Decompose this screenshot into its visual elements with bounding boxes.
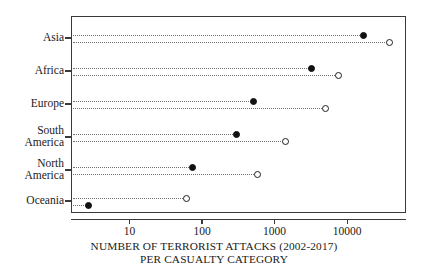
y-axis-label-europe: Europe	[0, 97, 64, 109]
y-axis-tick	[65, 70, 71, 71]
x-axis-title-line2: PER CASUALTY CATEGORY	[0, 253, 428, 266]
x-axis-tick	[274, 219, 275, 224]
connector-dotted-line	[73, 141, 285, 143]
y-axis-label-south-america: SouthAmerica	[0, 124, 64, 148]
x-axis-tick	[129, 219, 130, 224]
x-axis-title-line1: NUMBER OF TERRORIST ATTACKS (2002-2017)	[0, 240, 428, 253]
connector-dotted-line	[73, 198, 187, 200]
connector-dotted-line	[73, 134, 237, 136]
y-axis-label-asia: Asia	[0, 31, 64, 43]
x-axis-title: NUMBER OF TERRORIST ATTACKS (2002-2017) …	[0, 240, 428, 266]
y-axis-tick	[65, 103, 71, 104]
x-axis-line	[71, 219, 406, 220]
plot-area-frame	[71, 16, 406, 213]
filled-data-point-europe	[250, 98, 257, 105]
open-data-point-north-america	[254, 171, 261, 178]
connector-dotted-line	[73, 108, 326, 110]
y-axis-tick	[65, 136, 71, 137]
filled-data-point-south-america	[233, 131, 240, 138]
y-axis-tick	[65, 37, 71, 38]
y-axis-label-line: South	[0, 124, 64, 136]
y-axis-label-africa: Africa	[0, 64, 64, 76]
connector-dotted-line	[73, 174, 258, 176]
open-data-point-africa	[335, 72, 342, 79]
y-axis-label-oceania: Oceania	[0, 194, 64, 206]
y-axis-label-line: Africa	[0, 64, 64, 76]
y-axis-label-line: Oceania	[0, 194, 64, 206]
connector-dotted-line	[73, 75, 339, 77]
y-axis-label-line: Europe	[0, 97, 64, 109]
open-data-point-asia	[386, 39, 393, 46]
open-data-point-south-america	[282, 138, 289, 145]
y-axis-tick	[65, 200, 71, 201]
terrorist-attacks-dot-chart: AsiaAfricaEuropeSouthAmericaNorthAmerica…	[0, 0, 428, 271]
y-axis-label-line: North	[0, 157, 64, 169]
x-axis-tick	[347, 219, 348, 224]
connector-dotted-line	[73, 101, 253, 103]
y-axis-tick	[65, 169, 71, 170]
y-axis-label-line: America	[0, 136, 64, 148]
y-axis-label-line: America	[0, 169, 64, 181]
x-axis-tick	[201, 219, 202, 224]
x-axis-tick-label: 1000	[263, 225, 286, 237]
x-axis-tick-label: 10000	[333, 225, 362, 237]
filled-data-point-north-america	[189, 164, 196, 171]
y-axis-label-line: Asia	[0, 31, 64, 43]
filled-data-point-oceania	[85, 202, 92, 209]
x-axis-tick-label: 100	[193, 225, 210, 237]
y-axis-label-north-america: NorthAmerica	[0, 157, 64, 181]
filled-data-point-asia	[360, 32, 367, 39]
connector-dotted-line	[73, 35, 364, 37]
connector-dotted-line	[73, 167, 193, 169]
filled-data-point-africa	[308, 65, 315, 72]
open-data-point-oceania	[183, 195, 190, 202]
connector-dotted-line	[73, 42, 389, 44]
connector-dotted-line	[73, 68, 311, 70]
x-axis-tick-label: 10	[124, 225, 136, 237]
